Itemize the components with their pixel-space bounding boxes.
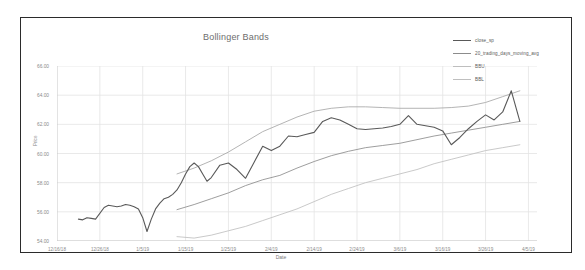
chart-frame: Bollinger Bands close_sp20_trading_days_…: [20, 17, 572, 253]
x-axis-label: Date: [21, 254, 541, 260]
series-line-close_sp: [78, 91, 519, 232]
legend-label: 20_trading_days_moving_avg: [475, 51, 539, 56]
legend-item-20_trading_days_moving_avg[interactable]: 20_trading_days_moving_avg: [453, 48, 573, 59]
x-axis-tick-label: 3/16/19: [435, 247, 450, 252]
plot-svg: [57, 66, 537, 241]
legend-label: close_sp: [475, 38, 494, 43]
y-axis-tick-label: 62.00: [37, 122, 49, 127]
x-axis-tick-label: 2/14/19: [306, 247, 321, 252]
x-axis-tick-label: 1/15/19: [178, 247, 193, 252]
y-axis-tick-label: 58.00: [37, 180, 49, 185]
x-axis-tick-label: 1/25/19: [221, 247, 236, 252]
x-axis-tick-label: 2/24/19: [349, 247, 364, 252]
plot-area: [57, 66, 537, 241]
x-axis-tick-label: 12/26/18: [91, 247, 109, 252]
y-axis-tick-label: 64.00: [37, 93, 49, 98]
x-axis-tick-label: 12/16/18: [48, 247, 66, 252]
x-axis-tick-label: 3/6/19: [393, 247, 406, 252]
y-axis-label: Price: [33, 136, 38, 146]
x-axis-tick-label: 1/5/19: [136, 247, 149, 252]
legend-swatch-icon: [453, 53, 471, 54]
legend-item-close_sp[interactable]: close_sp: [453, 35, 573, 46]
legend-swatch-icon: [453, 40, 471, 41]
y-axis-tick-label: 56.00: [37, 209, 49, 214]
y-axis-tick-label: 66.00: [37, 64, 49, 69]
chart-page: Bollinger Bands close_sp20_trading_days_…: [0, 0, 585, 270]
x-axis-tick-label: 2/4/19: [265, 247, 278, 252]
y-axis-tick-label: 54.00: [37, 239, 49, 244]
x-axis-tick-label: 3/26/19: [478, 247, 493, 252]
y-axis-tick-label: 60.00: [37, 151, 49, 156]
x-axis-tick-label: 4/5/19: [522, 247, 535, 252]
